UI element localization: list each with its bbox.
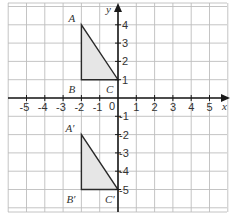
x-tick-label: 2 <box>152 101 158 113</box>
y-tick-label: -5 <box>119 184 129 196</box>
x-tick-label: -1 <box>93 101 103 113</box>
y-axis-label: y <box>105 3 111 15</box>
x-tick-label: 3 <box>170 101 176 113</box>
vertex-label: B <box>68 83 75 95</box>
y-axis-arrow-icon <box>114 3 122 12</box>
vertex-label: C′ <box>105 193 115 205</box>
y-tick-label: -3 <box>119 147 129 159</box>
y-tick-label: 4 <box>122 19 128 31</box>
y-tick-label: 1 <box>122 74 128 86</box>
vertex-label: A′ <box>64 122 75 134</box>
x-tick-label: -2 <box>74 101 84 113</box>
x-tick-label: 1 <box>133 101 139 113</box>
x-tick-label: 4 <box>188 101 194 113</box>
x-axis-label: x <box>221 100 227 112</box>
y-tick-label: -1 <box>119 110 129 122</box>
tick-labels: -5-4-3-2-1123454321-1-2-3-4-5 <box>20 19 213 196</box>
y-tick-label: 3 <box>122 37 128 49</box>
y-tick-label: -2 <box>119 129 129 141</box>
origin-label: 0 <box>109 100 115 112</box>
y-tick-label: -4 <box>119 165 129 177</box>
vertex-label: C <box>106 83 114 95</box>
x-tick-label: -3 <box>56 101 66 113</box>
coordinate-grid: x y 0 -5-4-3-2-1123454321-1-2-3-4-5 ABCA… <box>0 0 234 220</box>
vertex-label: A <box>67 12 75 24</box>
x-tick-label: -4 <box>38 101 48 113</box>
vertex-label: B′ <box>66 193 76 205</box>
x-tick-label: -5 <box>20 101 30 113</box>
x-tick-label: 5 <box>207 101 213 113</box>
y-tick-label: 2 <box>122 55 128 67</box>
